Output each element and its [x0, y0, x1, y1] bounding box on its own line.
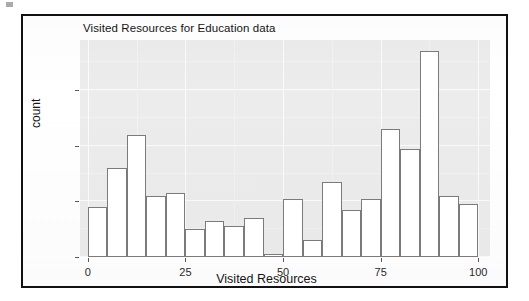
histogram-bar	[127, 135, 147, 257]
y-axis-tick-mark	[75, 257, 79, 258]
y-axis-tick-mark	[75, 146, 79, 147]
x-axis-tick-mark	[478, 258, 479, 262]
histogram-bar	[224, 226, 244, 257]
histogram-bar	[146, 196, 166, 257]
gridline-vertical-minor	[234, 40, 235, 257]
histogram-bar	[244, 218, 264, 257]
histogram-bar	[400, 149, 420, 258]
y-axis-title: count	[29, 99, 43, 128]
histogram-bar	[283, 199, 303, 257]
x-axis-tick-mark	[283, 258, 284, 262]
histogram-bar	[303, 240, 323, 257]
histogram-bar	[264, 254, 284, 257]
plot-panel	[80, 40, 490, 257]
gridline-vertical	[185, 40, 186, 257]
gridline-vertical	[478, 40, 479, 257]
histogram-bar	[342, 210, 362, 257]
x-axis-tick-mark	[88, 258, 89, 262]
y-axis-tick-mark	[75, 201, 79, 202]
histogram-bar	[107, 168, 127, 257]
x-axis-tick-mark	[381, 258, 382, 262]
histogram-bar	[185, 229, 205, 257]
histogram-bar	[420, 51, 440, 257]
histogram-bar	[322, 182, 342, 257]
page-title: Visited Resources for Education data	[83, 22, 276, 34]
x-axis-tick-mark	[185, 258, 186, 262]
scan-artifact-speck	[6, 2, 13, 7]
histogram-bar	[166, 193, 186, 257]
histogram-bar	[381, 129, 401, 257]
figure-frame: Visited Resources for Education data 020…	[21, 14, 508, 288]
histogram-bar	[459, 204, 479, 257]
x-axis-title: Visited Resources	[23, 272, 510, 286]
histogram-bar	[205, 221, 225, 257]
histogram-bar	[361, 199, 381, 257]
histogram-bar	[439, 196, 459, 257]
y-axis-tick-mark	[75, 90, 79, 91]
histogram-plot: Visited Resources for Education data 020…	[23, 16, 506, 286]
histogram-bar	[88, 207, 108, 257]
